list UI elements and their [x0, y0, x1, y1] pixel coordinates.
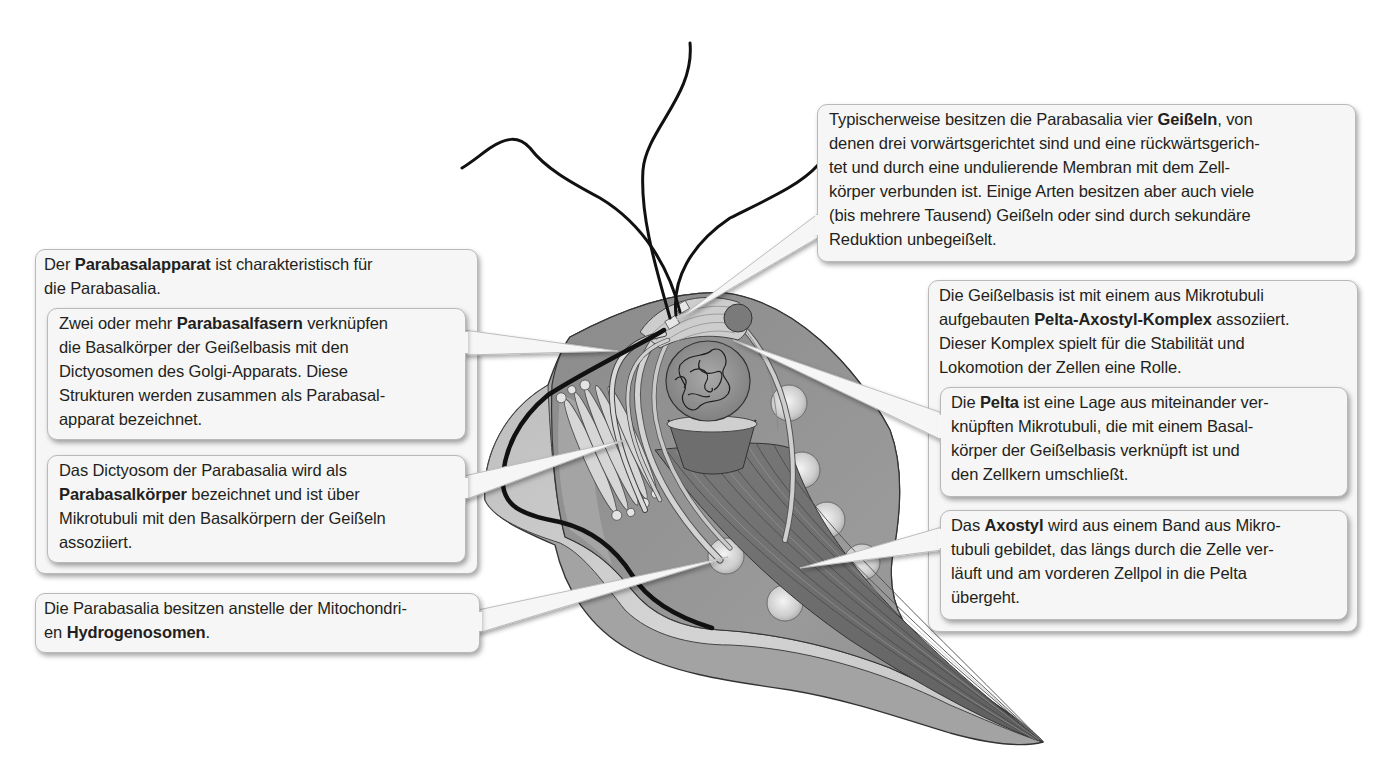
- text-line: Parabasalkörper bezeichnet und ist über: [59, 482, 454, 506]
- text-line: die Parabasalia.: [44, 276, 466, 300]
- key-term-axostyl: Axostyl: [985, 516, 1044, 534]
- key-term-hydrogenosomen: Hydrogenosomen: [67, 623, 206, 641]
- text-line: Der Parabasalapparat ist charakteristisc…: [44, 252, 466, 276]
- text-line: apparat bezeichnet.: [59, 407, 454, 431]
- callout-hydrogenosomes: Die Parabasalia besitzen anstelle der Mi…: [35, 593, 480, 653]
- text-line: aufgebauten Pelta-Axostyl-Komplex assozi…: [939, 307, 1346, 331]
- key-term-parabasalapparat: Parabasalapparat: [75, 255, 211, 273]
- text-line: Dieser Komplex spielt für die Stabilität…: [939, 331, 1346, 355]
- callout-axostyl: Das Axostyl wird aus einem Band aus Mikr…: [940, 510, 1348, 620]
- callout-pelta: Die Pelta ist eine Lage aus miteinander …: [940, 387, 1348, 497]
- text-line: die Basalkörper der Geißelbasis mit den: [59, 335, 454, 359]
- text-line: tet und durch eine undulierende Membran …: [829, 155, 1344, 179]
- text-line: Reduktion unbegeißelt.: [829, 227, 1344, 251]
- text-line: Die Parabasalia besitzen anstelle der Mi…: [44, 596, 468, 620]
- key-term-parabasalfasern: Parabasalfasern: [177, 314, 303, 332]
- key-term-pelta: Pelta: [980, 393, 1019, 411]
- text-line: Typischerweise besitzen die Parabasalia …: [829, 107, 1344, 131]
- key-term-pelta-axostyl-komplex: Pelta-Axostyl-Komplex: [1034, 310, 1212, 328]
- anterior-flagella: [462, 43, 818, 318]
- text-line: läuft und am vorderen Zellpol in die Pel…: [951, 561, 1336, 585]
- key-term-geisseln: Geißeln: [1157, 110, 1217, 128]
- text-line: körper der Geißelbasis verknüpft ist und: [951, 438, 1336, 462]
- callout-parabasal-body: Das Dictyosom der Parabasalia wird als P…: [47, 455, 466, 563]
- text-line: Lokomotion der Zellen eine Rolle.: [939, 355, 1346, 379]
- text-line: denen drei vorwärtsgerichtet sind und ei…: [829, 131, 1344, 155]
- text-line: assoziiert.: [59, 530, 454, 554]
- text-line: Zwei oder mehr Parabasalfasern verknüpfe…: [59, 311, 454, 335]
- callout-parabasal-fibres: Zwei oder mehr Parabasalfasern verknüpfe…: [47, 308, 466, 440]
- text-line: en Hydrogenosomen.: [44, 620, 468, 644]
- callout-pelta-axostyl-complex: Die Geißelbasis ist mit einem aus Mikrot…: [928, 280, 1358, 632]
- text-line: körper verbunden ist. Einige Arten besit…: [829, 179, 1344, 203]
- text-line: Mikrotubuli mit den Basalkörpern der Gei…: [59, 506, 454, 530]
- callout-flagella: Typischerweise besitzen die Parabasalia …: [817, 104, 1356, 262]
- text-line: (bis mehrere Tausend) Geißeln oder sind …: [829, 203, 1344, 227]
- text-line: übergeht.: [951, 585, 1336, 609]
- text-line: Die Geißelbasis ist mit einem aus Mikrot…: [939, 283, 1346, 307]
- text-line: Dictyosomen des Golgi-Apparats. Diese: [59, 359, 454, 383]
- text-line: Die Pelta ist eine Lage aus miteinander …: [951, 390, 1336, 414]
- text-line: tubuli gebildet, das längs durch die Zel…: [951, 537, 1336, 561]
- text-line: Das Axostyl wird aus einem Band aus Mikr…: [951, 513, 1336, 537]
- callout-parabasal-apparatus: Der Parabasalapparat ist charakteristisc…: [35, 249, 478, 574]
- text-line: Das Dictyosom der Parabasalia wird als: [59, 458, 454, 482]
- text-line: knüpften Mikrotubuli, die mit einem Basa…: [951, 414, 1336, 438]
- key-term-parabasalkoerper: Parabasalkörper: [59, 485, 187, 503]
- text-line: Strukturen werden zusammen als Parabasal…: [59, 383, 454, 407]
- text-line: den Zellkern umschließt.: [951, 462, 1336, 486]
